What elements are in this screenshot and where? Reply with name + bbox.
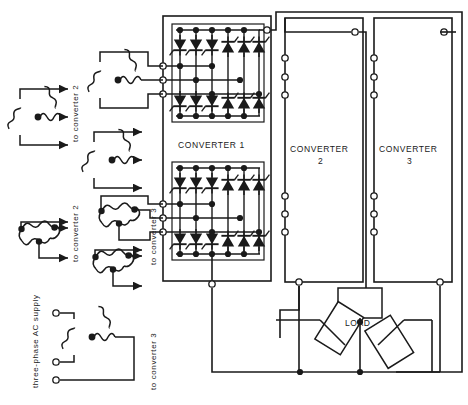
converter-1-label: CONVERTER 1 [178, 140, 245, 150]
converter-2-dc-positive-terminal[interactable] [352, 29, 358, 35]
thyristor-row-lower-a [170, 173, 270, 195]
converter-1-block[interactable]: CONVERTER 1 [160, 16, 271, 287]
converter-1-dc-negative-terminal[interactable] [209, 281, 215, 287]
converter-3-block[interactable]: CONVERTER 3 [371, 18, 452, 285]
transformer-star-to-converter-2: to converter 2 [6, 85, 80, 145]
load-label: LOAD [345, 318, 371, 328]
converter-2-label-line2: 2 [318, 156, 323, 166]
converter-3-label-line2: 3 [407, 156, 412, 166]
thyristor-row-upper-a [170, 35, 270, 57]
converter-3-dc-negative-terminal[interactable] [437, 279, 443, 285]
schematic-canvas: CONVERTER 1 [0, 0, 468, 405]
to-converter-2-lower-label: to converter 2 [71, 205, 80, 262]
converter-2-block[interactable]: CONVERTER 2 [282, 18, 363, 285]
three-phase-ac-supply-label: three-phase AC supply [31, 294, 40, 388]
to-converter-3-upper-label: to converter 3 [149, 208, 158, 265]
to-converter-3-lower-label: to converter 3 [149, 333, 158, 390]
transformer-delta-to-converter-3: to converter 3 [92, 249, 158, 390]
bottom-bus-junction-left [297, 369, 303, 375]
converter-1-dc-positive-terminal[interactable] [264, 27, 270, 33]
converter-3-label-line1: CONVERTER [379, 144, 438, 154]
converter-1-upper-bridge [165, 24, 269, 122]
transformer-delta-to-converter-2: to converter 2 [18, 205, 80, 262]
load-neutral-junction [357, 369, 363, 375]
converter-1-lower-bridge [165, 162, 269, 281]
power-electronics-schematic: CONVERTER 1 [0, 0, 468, 405]
load-block[interactable]: LOAD [297, 288, 414, 375]
supply-terminal-l2[interactable] [53, 359, 59, 365]
transformer-star-mid-upper [86, 48, 163, 108]
converter-2-label-line1: CONVERTER [290, 144, 349, 154]
supply-terminal-l3[interactable] [53, 377, 59, 383]
to-converter-2-upper-label: to converter 2 [71, 85, 80, 142]
three-phase-ac-supply: three-phase AC supply [31, 294, 134, 388]
supply-terminal-l1[interactable] [53, 310, 59, 316]
converter-2-dc-negative-terminal[interactable] [296, 279, 302, 285]
